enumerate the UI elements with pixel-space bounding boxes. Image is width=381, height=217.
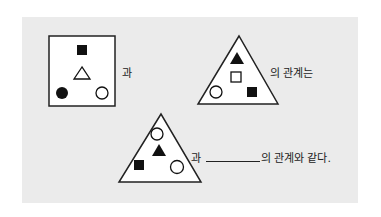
hollow-circle-icon	[151, 128, 163, 140]
hollow-circle-icon	[96, 87, 108, 99]
filled-square-icon	[77, 45, 87, 55]
filled-square-icon	[247, 87, 257, 97]
connector-text-3: 과	[191, 152, 201, 165]
hollow-circle-icon	[171, 161, 184, 174]
connector-text-2: 의 관계는	[270, 64, 314, 80]
hollow-circle-icon	[210, 86, 222, 98]
hollow-square-icon	[231, 72, 241, 82]
filled-circle-icon	[56, 87, 68, 99]
filled-square-icon	[134, 160, 144, 170]
suffix-text: 의 관계와 같다.	[261, 152, 332, 165]
connector-text-1: 과	[122, 64, 132, 80]
answer-sentence: 과 의 관계와 같다.	[191, 149, 331, 165]
answer-blank[interactable]	[206, 151, 260, 162]
figure-square-box	[48, 35, 118, 108]
